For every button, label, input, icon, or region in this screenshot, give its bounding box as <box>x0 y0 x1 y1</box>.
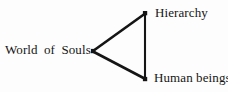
node-dot-hierarchy <box>143 11 147 15</box>
edge-world-of-souls-to-hierarchy <box>93 14 145 51</box>
node-label-world-of-souls: World of Souls <box>5 43 91 56</box>
node-dot-world-of-souls <box>91 49 95 53</box>
node-label-human-beings: Human beings <box>154 71 228 84</box>
diagram-canvas: Hierarchy Human beings World of Souls <box>0 0 228 92</box>
node-dot-human-beings <box>143 77 147 81</box>
node-label-hierarchy: Hierarchy <box>155 6 208 19</box>
edge-world-of-souls-to-human-beings <box>93 52 145 79</box>
